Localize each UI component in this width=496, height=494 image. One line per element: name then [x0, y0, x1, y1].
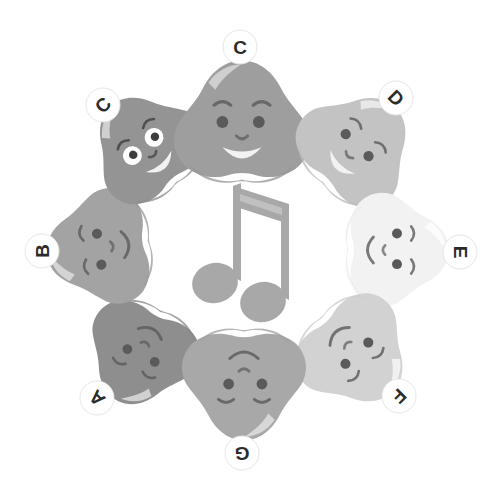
note-label-badge-c[interactable]: C	[86, 88, 120, 122]
note-label-badge-c[interactable]: C	[223, 30, 257, 64]
badge-letter: C	[233, 37, 247, 58]
note-label-badge-d[interactable]: D	[379, 81, 413, 115]
note-faces-ring-illustration: ABCCDEFG	[0, 0, 496, 494]
eye-right	[392, 259, 402, 269]
note-label-badge-b[interactable]: B	[25, 234, 59, 268]
eye-left	[257, 379, 268, 390]
badge-letter: E	[450, 246, 471, 259]
badge-letter: G	[235, 443, 250, 464]
note-label-badge-g[interactable]: G	[225, 436, 259, 470]
note-label-badge-e[interactable]: E	[443, 235, 477, 269]
eye-right	[253, 116, 265, 128]
eye-right	[223, 379, 234, 390]
note-label-badge-f[interactable]: F	[382, 379, 416, 413]
badge-letter: B	[32, 244, 53, 258]
eye-left	[392, 229, 402, 239]
note-label-badge-a[interactable]: A	[80, 381, 114, 415]
illustration-canvas: ABCCDEFG	[0, 0, 496, 494]
eye-left	[217, 116, 229, 128]
